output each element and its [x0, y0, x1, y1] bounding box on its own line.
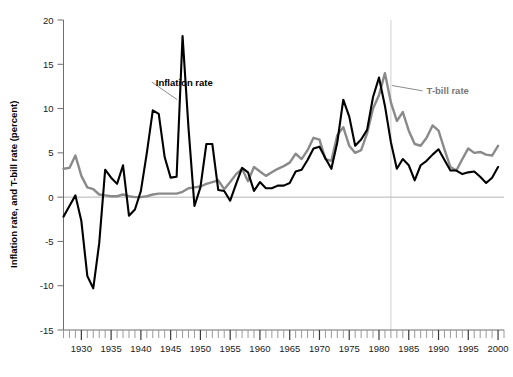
y-tick-label: 5 [48, 147, 53, 158]
x-tick-label: 1970 [309, 343, 330, 354]
y-tick-label: -15 [40, 325, 54, 336]
x-tick-label: 1980 [368, 343, 389, 354]
x-tick-label: 1955 [220, 343, 241, 354]
y-tick-label: -5 [45, 236, 53, 247]
x-tick-label: 1935 [101, 343, 122, 354]
y-tick-label: -10 [40, 280, 54, 291]
y-tick-label: 20 [43, 15, 54, 26]
y-axis-title: Inflation rate, and T-bill rate (percent… [8, 101, 19, 268]
x-tick-label: 1960 [249, 343, 270, 354]
annotation-label-ann-inflation: Inflation rate [156, 77, 213, 88]
x-tick-label: 1945 [160, 343, 181, 354]
x-tick-label: 1985 [398, 343, 419, 354]
x-tick-label: 2000 [487, 343, 508, 354]
x-tick-label: 1975 [339, 343, 360, 354]
x-tick-label: 1990 [428, 343, 449, 354]
x-tick-label: 1965 [279, 343, 300, 354]
y-tick-label: 10 [43, 103, 54, 114]
y-tick-label: 0 [48, 192, 53, 203]
x-tick-label: 1950 [190, 343, 211, 354]
annotation-label-ann-tbill: T-bill rate [427, 85, 469, 96]
x-tick-label: 1930 [71, 343, 92, 354]
x-tick-label: 1995 [458, 343, 479, 354]
y-tick-label: 15 [43, 59, 54, 70]
x-tick-label: 1940 [130, 343, 151, 354]
inflation-tbill-chart: 20151050-5-10-15 19301935194019451950195… [0, 0, 513, 377]
